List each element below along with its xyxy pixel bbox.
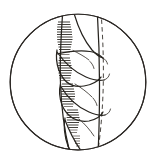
botanical-illustration [0, 0, 158, 164]
figure-container [0, 0, 158, 164]
